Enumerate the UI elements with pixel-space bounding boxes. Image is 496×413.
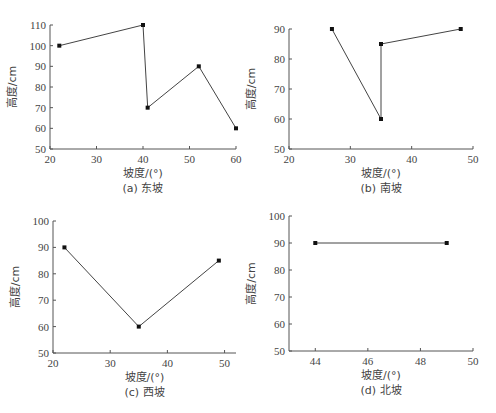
- x-tick-label: 40: [162, 357, 174, 369]
- y-tick-label: 60: [274, 318, 286, 330]
- chart-caption: (b) 南坡: [360, 182, 401, 195]
- y-tick-label: 100: [269, 210, 286, 222]
- x-tick-label: 50: [184, 153, 196, 165]
- y-tick-label: 60: [38, 321, 50, 333]
- data-point-marker: [137, 325, 141, 329]
- data-line: [332, 29, 461, 119]
- x-tick-label: 30: [91, 153, 103, 165]
- y-axis-label: 高度/cm: [8, 266, 22, 308]
- y-tick-label: 80: [274, 264, 286, 276]
- chart-caption: (c) 西坡: [124, 386, 164, 399]
- x-tick-label: 30: [345, 153, 357, 165]
- data-point-marker: [62, 245, 66, 249]
- data-point-marker: [217, 259, 221, 263]
- y-axis-label: 高度/cm: [244, 262, 258, 304]
- x-axis-label: 坡度/(°): [361, 368, 401, 382]
- chart-caption: (d) 北坡: [360, 384, 401, 397]
- x-tick-label: 50: [468, 153, 480, 165]
- figure: 50607080901001102030405060坡度/(°)(a) 东坡高度…: [0, 0, 496, 413]
- chart-panel-c: 506070809010020304050坡度/(°)(c) 西坡高度/cm: [8, 215, 236, 399]
- chart-panel-b: 506070809020304050坡度/(°)(b) 南坡高度/cm: [244, 23, 479, 195]
- chart-panel-d: 506070809010044464850坡度/(°)(d) 北坡高度/cm: [244, 210, 479, 397]
- data-point-marker: [146, 106, 150, 110]
- y-tick-label: 70: [38, 294, 50, 306]
- data-point-marker: [57, 44, 61, 48]
- x-tick-label: 20: [45, 153, 57, 165]
- x-tick-label: 40: [138, 153, 150, 165]
- data-point-marker: [234, 126, 238, 130]
- data-point-marker: [141, 23, 145, 27]
- x-tick-label: 30: [105, 357, 117, 369]
- x-tick-label: 60: [231, 153, 243, 165]
- y-tick-label: 70: [274, 291, 286, 303]
- y-tick-label: 60: [274, 113, 286, 125]
- data-point-marker: [197, 64, 201, 68]
- x-tick-label: 20: [284, 153, 296, 165]
- data-point-marker: [379, 117, 383, 121]
- x-axis-label: 坡度/(°): [123, 166, 163, 180]
- data-line: [64, 247, 218, 326]
- y-axis-label: 高度/cm: [5, 66, 19, 108]
- y-tick-label: 50: [274, 345, 286, 357]
- data-line: [59, 25, 236, 128]
- x-tick-label: 50: [468, 355, 480, 367]
- y-tick-label: 80: [274, 53, 286, 65]
- x-axis-label: 坡度/(°): [361, 166, 401, 180]
- y-tick-label: 70: [274, 83, 286, 95]
- data-point-marker: [330, 27, 334, 31]
- x-tick-label: 46: [362, 355, 374, 367]
- y-tick-label: 90: [274, 237, 286, 249]
- y-tick-label: 100: [30, 40, 47, 52]
- y-tick-label: 80: [38, 268, 50, 280]
- chart-caption: (a) 东坡: [123, 182, 164, 195]
- data-point-marker: [379, 42, 383, 46]
- x-tick-label: 48: [415, 355, 427, 367]
- chart-panel-a: 50607080901001102030405060坡度/(°)(a) 东坡高度…: [5, 19, 242, 195]
- data-point-marker: [313, 241, 317, 245]
- y-tick-label: 60: [35, 122, 47, 134]
- y-tick-label: 70: [35, 102, 47, 114]
- x-axis-label: 坡度/(°): [125, 370, 165, 384]
- x-tick-label: 44: [310, 355, 322, 367]
- y-tick-label: 90: [38, 241, 50, 253]
- y-tick-label: 110: [30, 19, 47, 31]
- y-tick-label: 90: [35, 60, 47, 72]
- data-point-marker: [459, 27, 463, 31]
- y-tick-label: 90: [274, 23, 286, 35]
- x-tick-label: 40: [406, 153, 418, 165]
- y-tick-label: 80: [35, 81, 47, 93]
- y-axis-label: 高度/cm: [244, 68, 258, 110]
- y-tick-label: 100: [33, 215, 50, 227]
- x-tick-label: 50: [219, 357, 231, 369]
- data-point-marker: [445, 241, 449, 245]
- x-tick-label: 20: [48, 357, 60, 369]
